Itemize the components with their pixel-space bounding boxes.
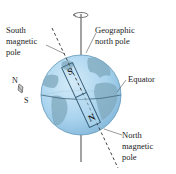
compass-n-label: N [12, 76, 18, 85]
north-magnetic-pole-label: North magnetic pole [122, 130, 155, 162]
south-magnetic-pole-label: South magnetic pole [6, 25, 39, 57]
geographic-north-pole-label: Geographic north pole [95, 25, 137, 46]
compass-needle-icon: N S [12, 76, 28, 105]
equator-label: Equator [128, 74, 155, 84]
compass-s-label: S [24, 96, 28, 105]
earth-magnetic-field-diagram: S N South magnetic pole Geographic north… [0, 0, 176, 174]
